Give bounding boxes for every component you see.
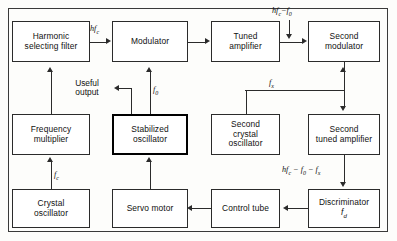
- connector-tuned-amplifier-to-second-modulator: [280, 42, 303, 43]
- block-servo-motor[interactable]: Servo motor: [112, 189, 188, 228]
- signal-label-hfc: hfc: [90, 24, 99, 35]
- block-harmonic-selecting-filter[interactable]: Harmonic selecting filter: [12, 21, 90, 62]
- arrowhead-down: [286, 34, 292, 39]
- connector-useful-output-riser: [131, 88, 132, 114]
- connector-servo-motor-to-stabilized-oscillator: [150, 162, 151, 189]
- block-label: Modulator: [131, 37, 169, 46]
- arrowhead-up: [340, 67, 346, 72]
- annotation-useful-output: Useful output: [62, 79, 112, 98]
- block-control-tube[interactable]: Control tube: [211, 189, 280, 228]
- signal-label-fx: fx: [269, 78, 274, 89]
- block-label: Servo motor: [127, 204, 174, 213]
- connector-fx-riser-to-second-modulator: [344, 72, 345, 91]
- signal-label-hfc-minus-f0-minus-fx: hfc − f0 − fx: [282, 165, 321, 176]
- connector-control-tube-to-servo-motor: [190, 208, 211, 209]
- block-crystal-oscillator[interactable]: Crystal oscillator: [12, 189, 90, 228]
- arrowhead-down: [340, 182, 346, 187]
- arrowhead-left: [283, 205, 288, 211]
- connector-filter-to-modulator: [90, 42, 107, 43]
- connector-stabilized-oscillator-to-modulator: [150, 72, 151, 114]
- arrowhead-up: [47, 67, 53, 72]
- block-label: Stabilized oscillator: [131, 125, 168, 144]
- block-label: Second modulator: [325, 32, 363, 51]
- arrowhead-left: [114, 85, 119, 91]
- connector-second-tuned-amplifier-to-discriminator: [344, 155, 345, 183]
- block-label: Crystal oscillator: [34, 199, 68, 218]
- connector-useful-output-run: [119, 88, 132, 89]
- connector-fx-run: [245, 90, 344, 91]
- arrowhead-down: [340, 106, 346, 111]
- block-second-tuned-amplifier[interactable]: Second tuned amplifier: [308, 114, 380, 155]
- block-diagram-canvas: Harmonic selecting filter Modulator Tune…: [0, 0, 397, 241]
- block-label: Frequency multiplier: [31, 125, 71, 144]
- arrowhead-right: [106, 38, 111, 44]
- block-label: Discriminator: [319, 198, 369, 207]
- block-stabilized-oscillator[interactable]: Stabilized oscillator: [112, 114, 188, 155]
- block-tuned-amplifier[interactable]: Tuned amplifier: [211, 21, 280, 62]
- arrowhead-up: [146, 157, 152, 162]
- arrowhead-up: [47, 157, 53, 162]
- block-label: Tuned amplifier: [229, 32, 262, 51]
- arrowhead-right: [205, 38, 210, 44]
- connector-second-crystal-riser: [246, 90, 247, 114]
- signal-label-f0: f0: [153, 85, 158, 96]
- block-sublabel: fd: [341, 208, 347, 219]
- block-label: Harmonic selecting filter: [25, 32, 78, 51]
- connector-discriminator-to-control-tube: [285, 208, 308, 209]
- arrowhead-right: [302, 38, 307, 44]
- block-label: Second tuned amplifier: [316, 125, 372, 144]
- block-second-modulator[interactable]: Second modulator: [308, 21, 380, 62]
- block-label: Second crystal oscillator: [228, 120, 262, 148]
- block-label: Control tube: [222, 204, 269, 213]
- block-discriminator[interactable]: Discriminator fd: [308, 189, 380, 228]
- connector-crystal-oscillator-to-frequency-multiplier: [51, 162, 52, 189]
- connector-hfc-minus-f0-drop: [289, 20, 290, 35]
- block-modulator[interactable]: Modulator: [112, 21, 188, 62]
- connector-modulator-to-tuned-amplifier: [188, 42, 205, 43]
- signal-label-fc: fc: [54, 170, 59, 181]
- arrowhead-left: [187, 205, 192, 211]
- arrowhead-up: [146, 67, 152, 72]
- block-frequency-multiplier[interactable]: Frequency multiplier: [12, 114, 90, 155]
- signal-label-hfc-minus-f0: hfc−f0: [272, 6, 292, 17]
- block-second-crystal-oscillator[interactable]: Second crystal oscillator: [211, 114, 280, 155]
- connector-frequency-multiplier-to-filter: [51, 72, 52, 114]
